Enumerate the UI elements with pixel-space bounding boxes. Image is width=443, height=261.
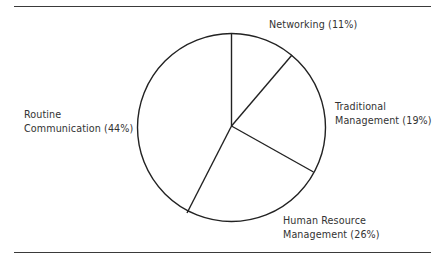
label-text: Management (19%) (335, 114, 432, 128)
slice-label-human-resource-management: Human Resource Management (26%) (283, 214, 380, 242)
label-text: Human Resource (283, 214, 380, 228)
slice-label-traditional-management: Traditional Management (19%) (335, 100, 432, 128)
label-text: Networking (11%) (269, 18, 357, 32)
label-text: Routine (24, 108, 133, 122)
label-text: Communication (44%) (24, 122, 133, 136)
slice-boundary-hr-routine (187, 126, 232, 213)
slice-label-networking: Networking (11%) (269, 18, 357, 32)
label-text: Management (26%) (283, 228, 380, 242)
slice-boundary-traditional-hr (232, 126, 314, 172)
bottom-rule (14, 252, 431, 253)
slice-label-routine-communication: Routine Communication (44%) (24, 108, 133, 136)
slice-boundary-networking-traditional (232, 55, 293, 126)
label-text: Traditional (335, 100, 432, 114)
